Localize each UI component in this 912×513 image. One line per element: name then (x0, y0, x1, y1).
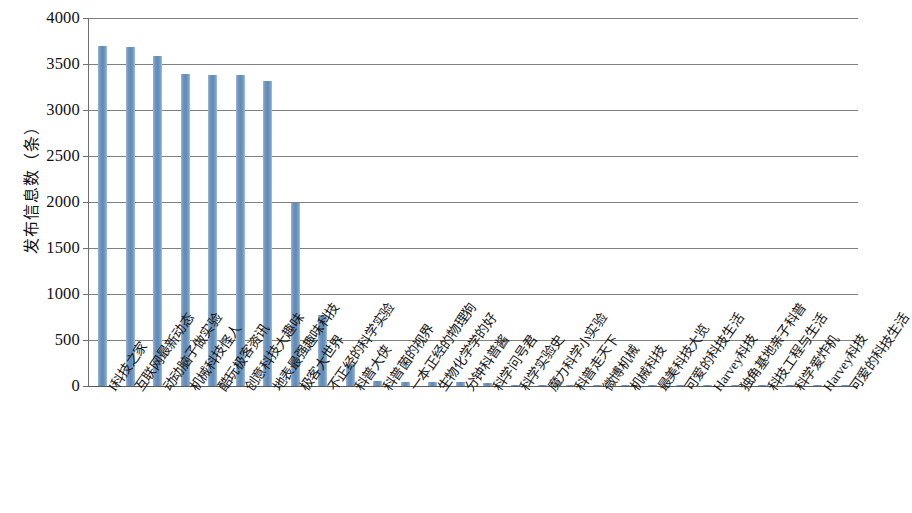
y-axis-tick-label: 2000 (46, 192, 80, 212)
y-axis-tick-label: 500 (55, 330, 80, 350)
y-axis-tick-label: 2500 (46, 146, 80, 166)
y-axis-title: 发布信息数（条） (24, 66, 40, 306)
y-axis-tick-label: 3000 (46, 100, 80, 120)
bar (153, 56, 162, 386)
y-axis-tick-label: 1500 (46, 238, 80, 258)
y-axis-tick-label: 1000 (46, 284, 80, 304)
x-axis-labels: I科技之家互联网最新动态动动脑子做实验机械科技怪人酷玩极客资讯创意科技大趣味地表… (88, 386, 858, 513)
y-axis-tick-label: 4000 (46, 8, 80, 28)
bar (98, 46, 107, 386)
y-axis-tick-label: 3500 (46, 54, 80, 74)
bar (126, 47, 135, 386)
y-axis-tick-label: 0 (72, 376, 80, 396)
